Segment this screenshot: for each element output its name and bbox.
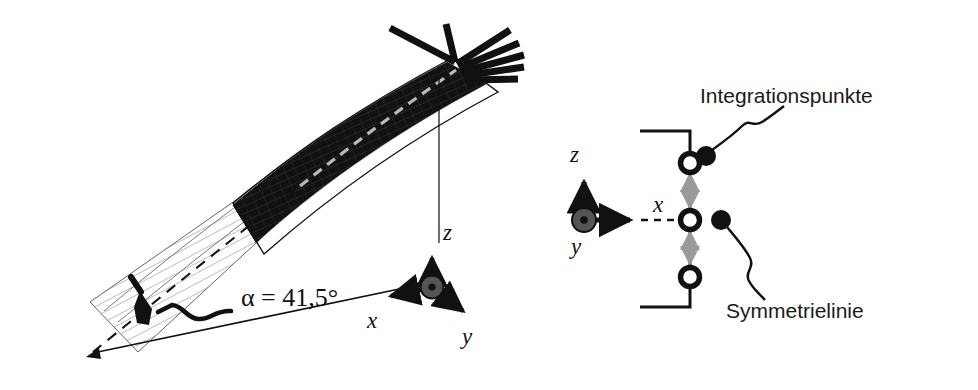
integration-points-leader bbox=[712, 106, 784, 150]
integration-points bbox=[681, 154, 700, 287]
z-axis-label-right: z bbox=[569, 142, 579, 167]
angle-label: α = 41,5° bbox=[241, 283, 338, 312]
integration-point-bottom bbox=[681, 268, 700, 287]
cross-section-detail-group: z y x Integrationspunkte Sym bbox=[569, 84, 873, 322]
clamped-shell-segment bbox=[233, 60, 500, 252]
dark-shell-region bbox=[233, 60, 500, 252]
y-axis-center-dot-right bbox=[580, 216, 588, 224]
z-axis-label: z bbox=[442, 220, 452, 245]
integration-point-middle bbox=[681, 211, 700, 230]
y-axis-center-dot bbox=[428, 283, 435, 290]
x-axis-label: x bbox=[366, 308, 378, 333]
symmetry-line-leader bbox=[727, 227, 765, 300]
shell-model-group: α = 41,5° z x y bbox=[86, 24, 524, 359]
y-axis-label-right: y bbox=[569, 234, 582, 259]
right-coordinate-system: z y x bbox=[569, 142, 664, 259]
symmetry-line-label: Symmetrielinie bbox=[726, 299, 864, 322]
integration-points-label: Integrationspunkte bbox=[700, 84, 873, 107]
diagram-svg: α = 41,5° z x y z y x bbox=[0, 0, 978, 390]
angle-vertex-marker bbox=[86, 348, 101, 359]
figure-canvas: α = 41,5° z x y z y x bbox=[0, 0, 978, 390]
y-axis-label: y bbox=[460, 324, 473, 349]
x-axis-label-right: x bbox=[652, 192, 664, 217]
